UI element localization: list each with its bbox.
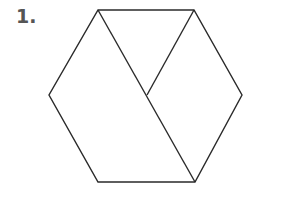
hexagon-figure — [0, 0, 287, 200]
segment-top-right-to-center — [147, 10, 194, 95]
hexagon-outline — [49, 10, 242, 182]
